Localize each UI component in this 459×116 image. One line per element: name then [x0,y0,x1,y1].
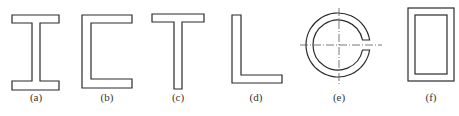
profiles-diagram [0,0,459,116]
t-section-shape [152,14,204,89]
panel-label-c: (c) [158,91,198,103]
panel-label-e: (e) [319,91,359,103]
channel-section-shape [82,15,132,88]
rhs-inner-shape [415,15,447,74]
panel-label-f: (f) [411,91,451,103]
panel-label-d: (d) [236,91,276,103]
i-section-shape [12,15,59,90]
panel-label-b: (b) [87,91,127,103]
angle-section-shape [232,15,282,83]
panel-label-a: (a) [16,91,56,103]
